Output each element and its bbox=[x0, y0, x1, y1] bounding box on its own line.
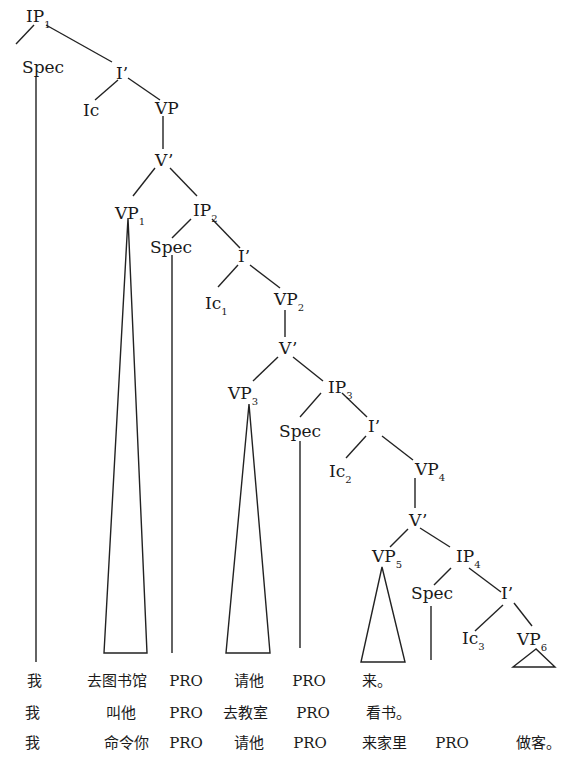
node-vp: VP bbox=[154, 98, 179, 118]
leaf-r3-c6: 来家里 bbox=[362, 734, 407, 752]
node-vp1: VP1 bbox=[114, 203, 145, 227]
leaf-rows: 我 去图书馆 PRO 请他 PRO 来。 我 叫他 PRO 去教室 PRO 看书… bbox=[25, 672, 561, 752]
node-spec3: Spec bbox=[279, 421, 321, 441]
leaf-r2-c2: 叫他 bbox=[106, 704, 136, 722]
node-vbar2: V’ bbox=[278, 338, 297, 358]
leaf-r3-c7: PRO bbox=[435, 734, 469, 752]
leaf-r1-c6: 来。 bbox=[362, 672, 392, 690]
node-ic1: Ic1 bbox=[205, 293, 228, 317]
node-ic3: Ic3 bbox=[462, 628, 485, 652]
node-ic2: Ic2 bbox=[329, 461, 352, 485]
node-vp4: VP4 bbox=[414, 459, 445, 483]
node-vp6: VP6 bbox=[516, 629, 547, 653]
leaf-r2-c6: 看书。 bbox=[366, 704, 411, 722]
node-vbar3: V’ bbox=[408, 510, 427, 530]
node-ip3: IP3 bbox=[328, 377, 353, 401]
syntax-tree-diagram: IP1 Spec I’ Ic VP V’ VP1 IP2 Spec I’ Ic1… bbox=[0, 0, 571, 766]
node-ibar3: I’ bbox=[368, 416, 380, 436]
node-ip1: IP1 bbox=[26, 6, 51, 30]
leaf-r2-c4: 去教室 bbox=[223, 704, 268, 722]
leaf-r1-c3: PRO bbox=[169, 672, 203, 690]
node-ibar4: I’ bbox=[501, 583, 513, 603]
node-spec2: Spec bbox=[150, 237, 192, 257]
leaf-r1-c1: 我 bbox=[27, 672, 42, 690]
node-vbar1: V’ bbox=[154, 150, 173, 170]
node-vp3: VP3 bbox=[227, 383, 258, 407]
leaf-r2-c5: PRO bbox=[296, 704, 330, 722]
node-ip4: IP4 bbox=[456, 546, 481, 570]
node-vp5: VP5 bbox=[371, 546, 402, 570]
node-vp2: VP2 bbox=[273, 289, 304, 313]
node-ic: Ic bbox=[83, 100, 99, 120]
leaf-r3-c3: PRO bbox=[169, 734, 203, 752]
leaf-r3-c8: 做客。 bbox=[516, 734, 561, 752]
node-ibar1: I’ bbox=[116, 63, 128, 83]
leaf-r2-c1: 我 bbox=[25, 704, 40, 722]
node-ibar2: I’ bbox=[238, 246, 250, 266]
leaf-r1-c5: PRO bbox=[292, 672, 326, 690]
node-ip2: IP2 bbox=[193, 200, 218, 224]
leaf-r1-c2: 去图书馆 bbox=[87, 672, 147, 690]
node-spec4: Spec bbox=[411, 583, 453, 603]
node-spec1: Spec bbox=[22, 57, 64, 77]
leaf-r1-c4: 请他 bbox=[234, 672, 264, 690]
leaf-r2-c3: PRO bbox=[169, 704, 203, 722]
leaf-r3-c1: 我 bbox=[25, 734, 40, 752]
leaf-r3-c5: PRO bbox=[293, 734, 327, 752]
leaf-r3-c4: 请他 bbox=[234, 734, 264, 752]
leaf-r3-c2: 命令你 bbox=[104, 734, 149, 752]
